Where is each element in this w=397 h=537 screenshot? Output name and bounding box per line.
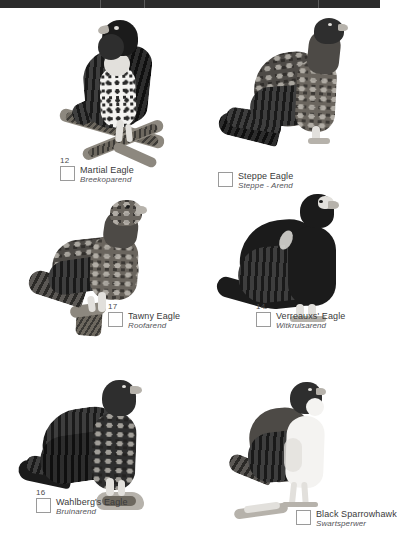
species-card-black-sparrowhawk[interactable]: Black Sparrowhawk Swartsperwer (228, 376, 380, 537)
species-number: 14 (256, 302, 345, 311)
species-checkbox[interactable] (36, 498, 51, 513)
species-number: 12 (60, 156, 134, 165)
species-name-en: Tawny Eagle (128, 311, 180, 321)
species-number: 16 (36, 488, 128, 497)
species-card-martial-eagle[interactable]: 12 Martial Eagle Breekoparend (58, 12, 198, 197)
species-name-en: Wahlberg's Eagle (56, 497, 128, 507)
species-checkbox[interactable] (108, 312, 123, 327)
species-name-af: Bruinarend (56, 507, 128, 517)
species-name-en: Verreauxs' Eagle (276, 311, 345, 321)
species-checkbox[interactable] (296, 510, 311, 525)
species-name-af: Witkruisarend (276, 321, 345, 331)
species-label: 17 Tawny Eagle Roofarend (108, 302, 180, 331)
species-label: 16 Wahlberg's Eagle Bruinarend (36, 488, 128, 517)
species-checkbox[interactable] (256, 312, 271, 327)
steppe-eagle-illustration (216, 10, 356, 165)
species-name-af: Swartsperwer (316, 519, 397, 529)
species-checkbox[interactable] (218, 172, 233, 187)
species-number: 17 (108, 302, 180, 311)
species-card-steppe-eagle[interactable]: Steppe Eagle Steppe - Arend (216, 10, 366, 195)
species-name-af: Breekoparend (80, 175, 134, 185)
martial-eagle-illustration (58, 12, 188, 172)
species-name-af: Roofarend (128, 321, 180, 331)
species-checkbox[interactable] (60, 166, 75, 181)
species-name-en: Martial Eagle (80, 165, 134, 175)
species-name-en: Black Sparrowhawk (316, 509, 397, 519)
species-label: 12 Martial Eagle Breekoparend (60, 156, 134, 185)
species-label: Black Sparrowhawk Swartsperwer (296, 500, 397, 529)
species-card-tawny-eagle[interactable]: 17 Tawny Eagle Roofarend (28, 192, 208, 352)
top-dark-bar (0, 0, 380, 8)
species-label: 14 Verreauxs' Eagle Witkruisarend (256, 302, 345, 331)
species-card-verreauxs-eagle[interactable]: 14 Verreauxs' Eagle Witkruisarend (214, 186, 380, 356)
species-name-en: Steppe Eagle (238, 171, 293, 181)
species-card-wahlbergs-eagle[interactable]: 16 Wahlberg's Eagle Bruinarend (18, 372, 198, 537)
